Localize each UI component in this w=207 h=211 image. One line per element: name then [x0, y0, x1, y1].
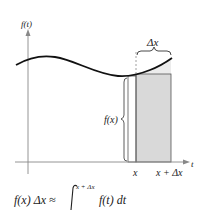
- height-label: f(x): [104, 114, 119, 126]
- shaded-rectangle: [136, 74, 171, 162]
- formula-integrand: f(t) dt: [99, 193, 127, 207]
- integral-diagram: Δx f(x) f(t) t x x + Δx f(x) Δx ≈ x + Δx…: [0, 0, 207, 211]
- height-brace-icon: [121, 78, 127, 161]
- tick-label-x-plus-dx: x + Δx: [155, 167, 183, 178]
- thin-strip: [128, 76, 136, 162]
- t-axis-label: t: [191, 159, 194, 169]
- y-axis-label: f(t): [21, 19, 32, 29]
- delta-x-label: Δx: [146, 36, 158, 48]
- area-under-curve-excess: [136, 58, 171, 74]
- delta-x-brace-icon: [137, 47, 171, 55]
- formula-lhs: f(x) Δx ≈: [14, 193, 56, 207]
- y-axis-arrow-icon: [26, 29, 31, 36]
- formula-upper-limit: x + Δx: [75, 183, 95, 191]
- t-axis-arrow-icon: [183, 160, 190, 165]
- tick-label-x: x: [132, 167, 138, 178]
